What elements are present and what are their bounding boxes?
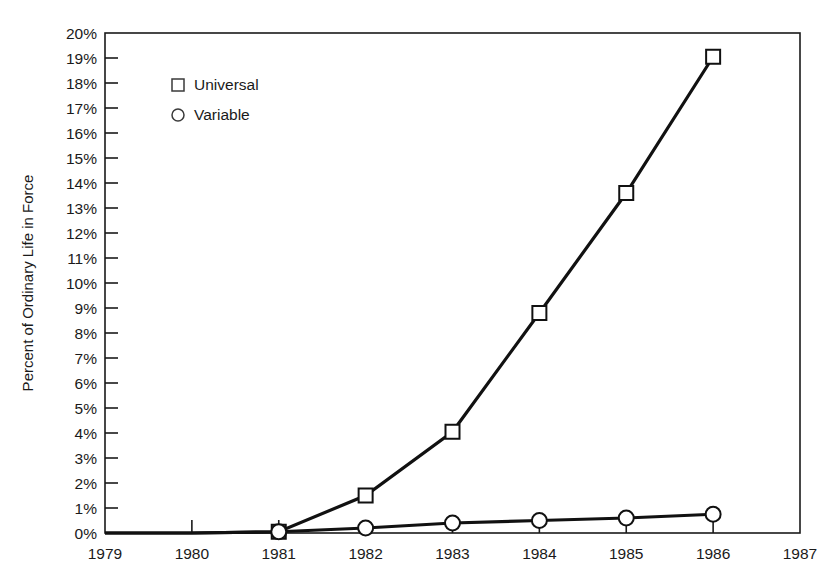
data-point-marker	[532, 306, 546, 320]
y-tick-label: 17%	[66, 100, 97, 117]
y-tick-label: 15%	[66, 150, 97, 167]
chart-background	[0, 0, 831, 586]
y-tick-label: 5%	[75, 400, 98, 417]
y-tick-label: 3%	[75, 450, 98, 467]
x-tick-label: 1987	[783, 545, 817, 562]
data-point-marker	[446, 425, 460, 439]
data-point-marker	[706, 50, 720, 64]
y-tick-label: 18%	[66, 75, 97, 92]
y-tick-label: 7%	[75, 350, 98, 367]
data-point-marker	[532, 513, 547, 528]
x-tick-label: 1983	[435, 545, 469, 562]
data-point-marker	[359, 489, 373, 503]
data-point-marker	[358, 521, 373, 536]
x-tick-label: 1984	[522, 545, 557, 562]
y-tick-label: 8%	[75, 325, 98, 342]
data-point-marker	[619, 186, 633, 200]
y-tick-label: 4%	[75, 425, 98, 442]
y-axis-title: Percent of Ordinary Life in Force	[19, 175, 36, 392]
x-axis-tick-labels: 197919801981198219831984198519861987	[88, 545, 817, 562]
y-tick-label: 1%	[75, 500, 98, 517]
data-point-marker	[706, 507, 721, 522]
data-point-marker	[271, 524, 286, 539]
legend-marker-square	[172, 79, 184, 91]
y-tick-label: 13%	[66, 200, 97, 217]
legend-marker-circle	[172, 109, 184, 121]
y-tick-label: 12%	[66, 225, 97, 242]
legend-label-variable: Variable	[194, 106, 250, 123]
y-tick-label: 20%	[66, 25, 97, 42]
data-point-marker	[619, 511, 634, 526]
y-tick-label: 9%	[75, 300, 98, 317]
y-tick-label: 11%	[67, 250, 97, 267]
x-tick-label: 1979	[88, 545, 122, 562]
y-tick-label: 0%	[75, 525, 98, 542]
y-tick-label: 10%	[66, 275, 97, 292]
legend-label-universal: Universal	[194, 76, 259, 93]
x-tick-label: 1980	[175, 545, 210, 562]
x-tick-label: 1982	[348, 545, 382, 562]
y-tick-label: 6%	[75, 375, 98, 392]
line-chart: 0%1%2%3%4%5%6%7%8%9%10%11%12%13%14%15%16…	[0, 0, 831, 586]
y-tick-label: 16%	[66, 125, 97, 142]
x-tick-label: 1985	[609, 545, 643, 562]
x-tick-label: 1981	[262, 545, 296, 562]
y-tick-label: 14%	[66, 175, 97, 192]
y-tick-label: 19%	[66, 50, 97, 67]
chart-canvas: 0%1%2%3%4%5%6%7%8%9%10%11%12%13%14%15%16…	[0, 0, 831, 586]
x-tick-label: 1986	[696, 545, 730, 562]
data-point-marker	[445, 516, 460, 531]
y-tick-label: 2%	[75, 475, 98, 492]
